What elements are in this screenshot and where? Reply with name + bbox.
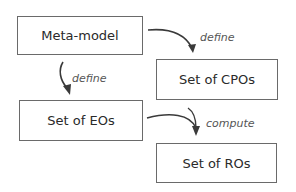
node-label: Meta-model	[41, 28, 118, 43]
edge-label-compute: compute	[206, 117, 255, 130]
edge-label-define-eos: define	[72, 72, 107, 85]
edge-label-define-cpos: define	[200, 31, 235, 44]
node-set-of-ros: Set of ROs	[156, 143, 277, 183]
node-set-of-eos: Set of EOs	[19, 100, 143, 141]
node-label: Set of CPOs	[179, 72, 255, 87]
diagram-canvas: Meta-model Set of CPOs Set of EOs Set of…	[0, 0, 296, 192]
node-set-of-cpos: Set of CPOs	[156, 59, 278, 100]
node-label: Set of ROs	[182, 156, 250, 171]
arrow-eos-to-ros	[147, 108, 200, 136]
node-label: Set of EOs	[47, 113, 114, 128]
arrow-meta-to-eos	[60, 62, 71, 95]
arrow-meta-to-cpos	[148, 30, 196, 53]
node-meta-model: Meta-model	[17, 16, 143, 55]
